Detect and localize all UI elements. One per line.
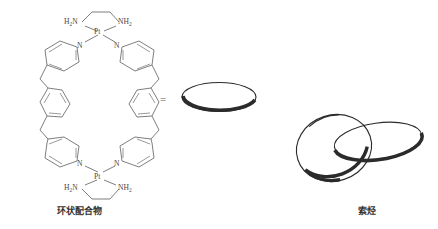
macrocyclic-complex: Pt Pt N N N N H2N NH2 H2N NH2 — [40, 12, 159, 199]
atom-label-n-bottom-right: N — [114, 159, 120, 168]
ethylenediamine-top — [82, 12, 119, 31]
atom-label-pt-top: Pt — [94, 27, 101, 36]
atom-label-n-top-left: N — [77, 41, 83, 50]
amine-bottom-left: H2N — [64, 183, 78, 193]
atom-label-n-bottom-left: N — [77, 159, 83, 168]
amine-top-left: H2N — [64, 17, 78, 27]
caption-catenane: 索烃 — [358, 205, 376, 216]
catenane-left-ring-over-strand — [308, 113, 340, 127]
single-ring-diagram — [182, 83, 256, 112]
equals-sign: = — [160, 93, 166, 105]
pyridine-bottom-left — [45, 137, 79, 167]
xylylene-right — [129, 79, 159, 139]
atom-label-n-top-right: N — [114, 41, 120, 50]
pt-n-bonds-top — [85, 35, 115, 42]
atom-label-pt-bottom: Pt — [94, 172, 101, 181]
pyridine-top-left — [40, 41, 79, 79]
ethylenediamine-bottom — [82, 180, 119, 199]
catenane-right-ring-thick-arc — [334, 133, 424, 166]
pyridine-bottom-right — [120, 137, 154, 167]
atom-labels: Pt Pt N N N N H2N NH2 H2N NH2 — [64, 17, 132, 193]
single-ring-outline — [182, 83, 256, 112]
catenane-diagram — [288, 105, 425, 191]
caption-macrocycle: 环状配合物 — [57, 205, 102, 216]
figure-canvas: Pt Pt N N N N H2N NH2 H2N NH2 = — [0, 0, 438, 229]
amine-top-right: NH2 — [118, 17, 132, 27]
xylylene-left — [40, 79, 70, 139]
chemistry-figure: Pt Pt N N N N H2N NH2 H2N NH2 = — [0, 0, 438, 229]
amine-bottom-right: NH2 — [118, 183, 132, 193]
pyridine-top-right — [120, 41, 159, 79]
